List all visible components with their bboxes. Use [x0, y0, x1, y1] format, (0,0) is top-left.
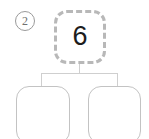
right-child-node[interactable]	[88, 86, 141, 139]
parent-node[interactable]: 6	[54, 10, 106, 64]
left-child-node[interactable]	[16, 86, 70, 139]
parent-node-value: 6	[72, 23, 87, 50]
step-number-marker: 2	[15, 11, 35, 31]
step-number-label: 2	[22, 15, 28, 27]
number-bond-diagram: 2 6	[0, 0, 149, 139]
